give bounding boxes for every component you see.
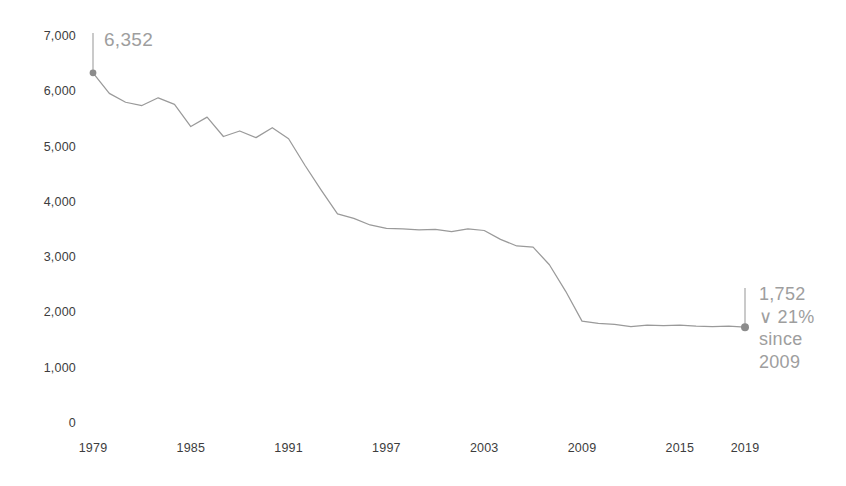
x-tick-2009: 2009 <box>552 441 612 455</box>
x-tick-2015: 2015 <box>650 441 710 455</box>
start-point-marker <box>90 69 97 76</box>
y-tick-5000: 5,000 <box>16 140 76 154</box>
x-tick-1985: 1985 <box>161 441 221 455</box>
x-tick-2019: 2019 <box>715 441 775 455</box>
y-tick-1000: 1,000 <box>16 361 76 375</box>
end-value-label: 1,752 <box>759 283 815 306</box>
y-tick-4000: 4,000 <box>16 195 76 209</box>
x-tick-1979: 1979 <box>63 441 123 455</box>
end-point-marker <box>741 323 749 331</box>
y-tick-3000: 3,000 <box>16 250 76 264</box>
y-tick-2000: 2,000 <box>16 305 76 319</box>
x-tick-1991: 1991 <box>259 441 319 455</box>
line-chart: 01,0002,0003,0004,0005,0006,0007,000 197… <box>0 0 846 486</box>
end-since-year: 2009 <box>759 351 815 374</box>
y-tick-6000: 6,000 <box>16 84 76 98</box>
x-tick-2003: 2003 <box>454 441 514 455</box>
data-series-line <box>93 73 745 327</box>
chart-plot-area <box>0 0 846 486</box>
x-tick-1997: 1997 <box>356 441 416 455</box>
start-value-label: 6,352 <box>104 29 153 50</box>
y-tick-0: 0 <box>16 416 76 430</box>
end-change-label: ∨ 21% <box>759 306 815 329</box>
end-value-annotation: 1,752 ∨ 21% since 2009 <box>759 283 815 373</box>
start-value-annotation: 6,352 <box>104 28 153 51</box>
y-tick-7000: 7,000 <box>16 29 76 43</box>
end-since-label: since <box>759 328 815 351</box>
